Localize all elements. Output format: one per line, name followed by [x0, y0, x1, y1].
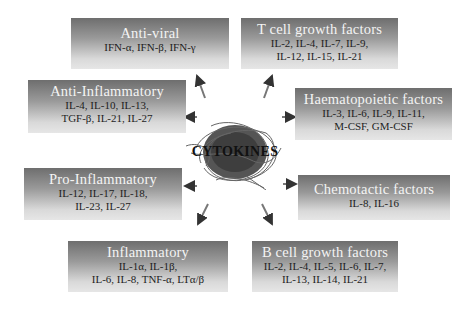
category-items-line2: M-CSF, GM-CSF [295, 120, 452, 133]
category-items: IL-8, IL-16 [298, 197, 450, 210]
category-items: IFN-α, IFN-β, IFN-γ [71, 41, 229, 54]
category-inflammatory: Inflammatory IL-1α, IL-1β, IL-6, IL-8, T… [68, 241, 228, 292]
category-title: Pro-Inflammatory [24, 171, 182, 187]
category-title: Anti-Inflammatory [28, 83, 186, 99]
center-label: CYTOKINES [176, 144, 294, 160]
cytokines-center: CYTOKINES [176, 118, 294, 190]
arrow-to-inflammatory [198, 204, 208, 224]
category-items-line2: IL-23, IL-27 [24, 200, 182, 213]
category-b-cell-growth: B cell growth factors IL-2, IL-4, IL-5, … [252, 241, 398, 292]
category-items-line2: IL-13, IL-14, IL-21 [252, 273, 398, 286]
category-items-line1: IL-2, IL-4, IL-5, IL-6, IL-7, [252, 260, 398, 273]
category-items-line2: IL-12, IL-15, IL-21 [241, 50, 398, 63]
category-items-line1: IL-3, IL-6, IL-9, IL-11, [295, 107, 452, 120]
category-t-cell-growth: T cell growth factors IL-2, IL-4, IL-7, … [241, 18, 398, 69]
category-items-line1: IL-1α, IL-1β, [68, 260, 228, 273]
arrow-to-t-cell-growth [264, 76, 272, 98]
category-items-line2: TGF-β, IL-21, IL-27 [28, 112, 186, 125]
category-title: Haematopoietic factors [295, 91, 452, 107]
category-title: Chemotactic factors [298, 181, 450, 197]
category-items-line1: IL-4, IL-10, IL-13, [28, 99, 186, 112]
arrow-to-anti-viral [197, 76, 205, 98]
category-items-line1: IL-2, IL-4, IL-7, IL-9, [241, 37, 398, 50]
category-items-line2: IL-6, IL-8, TNF-α, LTα/β [68, 273, 228, 286]
arrow-to-b-cell-growth [262, 204, 272, 224]
category-title: Inflammatory [68, 244, 228, 260]
category-title: B cell growth factors [252, 244, 398, 260]
category-title: Anti-viral [71, 25, 229, 41]
category-chemotactic: Chemotactic factors IL-8, IL-16 [298, 175, 450, 220]
category-haematopoietic: Haematopoietic factors IL-3, IL-6, IL-9,… [295, 88, 452, 140]
category-title: T cell growth factors [241, 21, 398, 37]
category-anti-viral: Anti-viral IFN-α, IFN-β, IFN-γ [71, 18, 229, 69]
category-anti-inflammatory: Anti-Inflammatory IL-4, IL-10, IL-13, TG… [28, 80, 186, 133]
category-pro-inflammatory: Pro-Inflammatory IL-12, IL-17, IL-18, IL… [24, 168, 182, 220]
category-items-line1: IL-12, IL-17, IL-18, [24, 187, 182, 200]
